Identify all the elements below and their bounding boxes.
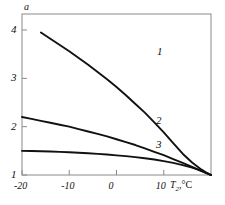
y-tick-label: 2 [11,121,17,132]
curve-label: 3 [156,139,162,150]
x-axis-label-units: ,°C [179,179,192,190]
y-tick-label: 1 [11,169,17,180]
y-tick-label: 3 [11,72,17,83]
y-tick-label: 4 [11,24,17,35]
curve-label: 2 [156,115,162,126]
figure: a T2,°C -20-10010 1234 123 [0,0,225,205]
curve-label: 1 [157,46,163,57]
x-tick-label: -20 [14,181,27,191]
chart-canvas [0,0,225,205]
x-tick-label: -10 [61,181,74,191]
x-axis-label: T2,°C [170,180,192,193]
x-tick-label: 0 [109,181,114,191]
y-axis-label: a [24,2,29,12]
x-tick-label: 10 [156,181,166,191]
